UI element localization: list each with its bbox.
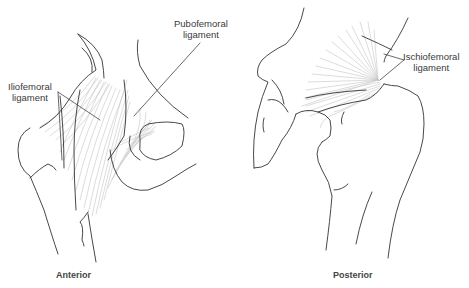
- hip-ligaments-diagram: [0, 0, 469, 288]
- pubofemoral-leader: [134, 43, 200, 116]
- anterior-bone-outline: [18, 34, 196, 262]
- posterior-ligament-fibers: [302, 22, 380, 128]
- iliofemoral-ligament-label: Iliofemoral ligament: [8, 81, 52, 103]
- pubofemoral-label-line2: ligament: [174, 29, 228, 40]
- ischiofemoral-leader-1: [384, 54, 404, 60]
- posterior-bone-outline: [254, 8, 425, 258]
- posterior-caption: Posterior: [333, 270, 373, 280]
- ischiofemoral-label-line2: ligament: [403, 62, 460, 73]
- ischiofemoral-leader-2: [380, 60, 404, 80]
- ischiofemoral-ligament-label: Ischiofemoral ligament: [403, 51, 460, 73]
- anterior-caption: Anterior: [56, 270, 91, 280]
- ischiofemoral-label-line1: Ischiofemoral: [403, 51, 460, 62]
- pubofemoral-label-line1: Pubofemoral: [174, 18, 228, 29]
- iliofemoral-leader-1: [58, 92, 62, 160]
- iliofemoral-label-line2: ligament: [8, 92, 52, 103]
- anterior-view: [18, 34, 200, 262]
- pubofemoral-ligament-label: Pubofemoral ligament: [174, 18, 228, 40]
- iliofemoral-label-line1: Iliofemoral: [8, 81, 52, 92]
- anterior-ligament-fibers: [40, 76, 156, 216]
- posterior-leader-lines: [380, 54, 404, 80]
- posterior-view: [254, 8, 425, 258]
